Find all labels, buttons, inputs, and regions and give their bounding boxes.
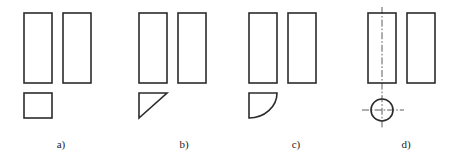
- panel-a-label: a): [57, 138, 66, 151]
- figure-canvas: a) b) c) d): [0, 0, 459, 161]
- technical-drawing-figure: a) b) c) d): [0, 0, 459, 161]
- panel-b-label: b): [179, 138, 189, 151]
- figure-background: [0, 0, 459, 161]
- panel-c-label: c): [292, 138, 301, 151]
- panel-d-label: d): [401, 138, 411, 151]
